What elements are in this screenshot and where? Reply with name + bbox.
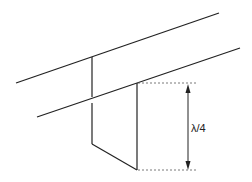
arrow-up-icon xyxy=(186,84,191,93)
upper-conductor-line xyxy=(16,13,219,83)
quarter-wave-stub-diagram: λ/4 xyxy=(0,0,252,182)
stub-short-circuit xyxy=(92,144,137,170)
lower-conductor-line xyxy=(37,48,240,117)
dimension-label: λ/4 xyxy=(191,122,206,134)
arrow-down-icon xyxy=(186,161,191,170)
